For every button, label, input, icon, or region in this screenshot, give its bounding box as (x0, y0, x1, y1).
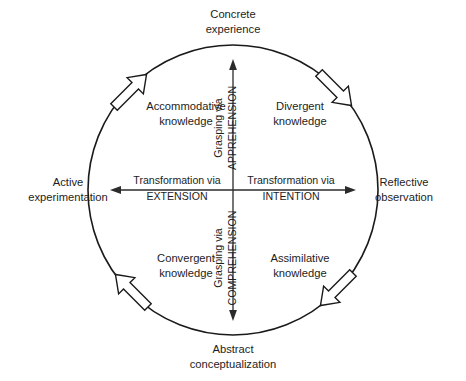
axis-label-comprehension: Grasping via (212, 228, 224, 288)
pole-label-top: Concrete experience (206, 8, 261, 35)
pole-label-right: Reflective observation (375, 176, 433, 203)
pole-right-line2: observation (375, 191, 433, 203)
pole-right-line1: Reflective (379, 176, 428, 188)
pole-label-left: Active experimentation (28, 176, 108, 203)
horizontal-left-prefix: Transformation via (133, 174, 220, 186)
vertical-up-prefix: Grasping via (212, 98, 224, 158)
quadrant-label-convergent: Convergent knowledge (157, 252, 216, 279)
axis-label-apprehension-term: APPREHENSION (226, 86, 238, 170)
kolb-learning-cycle-diagram: Concrete experience Abstract conceptuali… (0, 0, 466, 381)
quadrant-top-right-line1: Divergent (276, 100, 325, 112)
vertical-up-term: APPREHENSION (226, 86, 238, 170)
quadrant-label-assimilative: Assimilative knowledge (270, 252, 329, 279)
pole-left-line1: Active (53, 176, 83, 188)
pole-label-bottom: Abstract conceptualization (190, 343, 276, 370)
vertical-axis-arrowhead-up (229, 59, 237, 70)
axis-label-apprehension: Grasping via (212, 98, 224, 158)
vertical-down-term: COMPREHENSION (226, 211, 238, 306)
horizontal-axis-arrowhead-right (345, 186, 356, 194)
quadrant-bottom-right-line2: knowledge (273, 267, 327, 279)
horizontal-right-prefix: Transformation via (247, 174, 334, 186)
quadrant-bottom-right-line1: Assimilative (270, 252, 329, 264)
quadrant-bottom-left-line1: Convergent (157, 252, 216, 264)
horizontal-left-term: EXTENSION (146, 190, 207, 202)
horizontal-right-term: INTENTION (262, 190, 319, 202)
quadrant-top-right-line2: knowledge (273, 115, 327, 127)
quadrant-top-left-line2: knowledge (159, 115, 213, 127)
pole-top-line1: Concrete (210, 8, 255, 20)
pole-bottom-line1: Abstract (212, 343, 254, 355)
quadrant-bottom-left-line2: knowledge (159, 267, 213, 279)
axis-label-extension: Transformation via EXTENSION (133, 174, 220, 202)
diagram-canvas: Concrete experience Abstract conceptuali… (0, 0, 466, 381)
horizontal-axis-arrowhead-left (110, 186, 121, 194)
quadrant-label-divergent: Divergent knowledge (273, 100, 327, 127)
axis-label-comprehension-term: COMPREHENSION (226, 211, 238, 306)
pole-top-line2: experience (206, 23, 261, 35)
pole-bottom-line2: conceptualization (190, 358, 276, 370)
vertical-axis-arrowhead-down (229, 310, 237, 321)
axis-label-intention: Transformation via INTENTION (247, 174, 334, 202)
pole-left-line2: experimentation (28, 191, 108, 203)
vertical-down-prefix: Grasping via (212, 228, 224, 288)
